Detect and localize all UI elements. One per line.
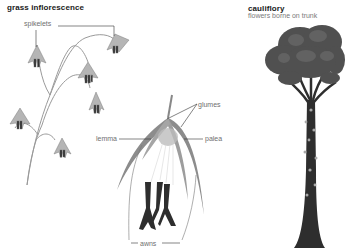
illustration [0,0,346,249]
spikelet-4 [89,92,104,114]
spikelet-6 [54,138,71,158]
spikelets-leader [36,26,114,47]
spikelet-1 [28,45,46,67]
cauliflory-tree [265,25,345,248]
detail-spikelet [117,95,204,240]
spikelet-5 [10,108,30,129]
spikelet-3 [78,62,98,83]
